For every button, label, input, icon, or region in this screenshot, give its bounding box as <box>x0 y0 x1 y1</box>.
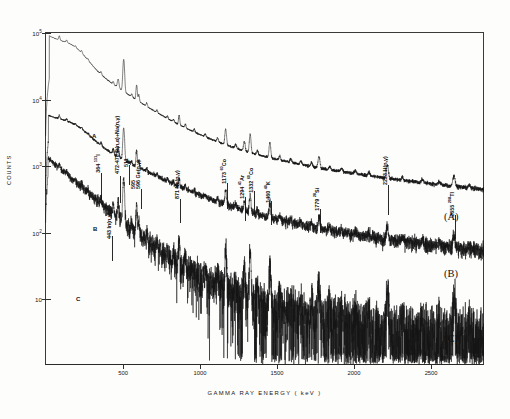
x-axis-title: GAMMA RAY ENERGY ( keV ) <box>45 390 484 396</box>
x-tick-label: 1500 <box>271 370 284 376</box>
y-tick-label: 102 <box>32 229 42 237</box>
y-tick-label: 104 <box>32 96 42 104</box>
x-tick-label: 500 <box>118 370 128 376</box>
y-tick-label: 10 <box>35 296 42 303</box>
y-tick-label: 103 <box>32 162 42 170</box>
y-tick-label: 105 <box>32 29 42 37</box>
spectra-canvas <box>45 32 484 365</box>
spectrum-curve-b <box>46 115 484 261</box>
x-tick-label: 1000 <box>194 370 207 376</box>
spectrum-curve-a <box>46 36 484 193</box>
x-tick-label: 2500 <box>425 370 438 376</box>
x-tick-label: 2000 <box>348 370 361 376</box>
figure-gamma-ray-spectrum: COUNTS 10510410310210 500100015002000250… <box>0 0 510 419</box>
y-axis-title: COUNTS <box>6 155 12 185</box>
spectrum-curve-c <box>46 156 484 364</box>
